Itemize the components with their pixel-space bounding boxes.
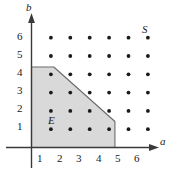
data-point-dot <box>49 72 53 76</box>
data-point-dot <box>127 127 131 131</box>
data-point-dot <box>68 72 72 76</box>
event-region-label-E: E <box>48 115 55 126</box>
sample-space-label-S: S <box>142 24 148 35</box>
shaded-region-E <box>32 67 115 148</box>
x-tick-label: 5 <box>115 153 121 164</box>
y-tick-label: 4 <box>17 67 23 78</box>
data-point-dot <box>49 109 53 113</box>
data-point-dot <box>127 91 131 95</box>
y-tick-label: 6 <box>17 31 23 42</box>
y-axis-arrow-icon <box>28 13 35 23</box>
y-tick-label: 3 <box>17 85 23 96</box>
data-point-dot <box>88 91 92 95</box>
data-point-dot <box>146 54 150 58</box>
data-point-dot <box>68 109 72 113</box>
data-point-dot <box>146 36 150 40</box>
data-point-dot <box>68 36 72 40</box>
data-point-dot <box>68 127 72 131</box>
data-point-dot <box>107 36 111 40</box>
data-point-dot <box>127 72 131 76</box>
y-tick-label: 1 <box>17 121 23 132</box>
data-point-dot <box>88 72 92 76</box>
data-point-dot <box>146 72 150 76</box>
y-tick-label: 2 <box>17 103 23 114</box>
data-point-dot <box>68 91 72 95</box>
data-point-dot <box>107 91 111 95</box>
data-point-dot <box>88 54 92 58</box>
data-point-dot <box>127 54 131 58</box>
y-axis-label-b: b <box>26 2 32 13</box>
x-tick-label: 4 <box>96 153 102 164</box>
x-axis-label-a: a <box>160 136 166 147</box>
data-point-dot <box>127 36 131 40</box>
x-tick-label: 1 <box>37 153 43 164</box>
data-point-dot <box>49 54 53 58</box>
data-point-dot <box>88 36 92 40</box>
x-tick-label: 3 <box>76 153 82 164</box>
data-point-dot <box>146 91 150 95</box>
data-point-dot <box>68 54 72 58</box>
data-point-dot <box>127 109 131 113</box>
data-point-dot <box>88 127 92 131</box>
data-point-dot <box>146 109 150 113</box>
data-point-dot <box>107 72 111 76</box>
data-point-dot <box>107 127 111 131</box>
data-point-dot <box>107 54 111 58</box>
data-point-dot <box>49 36 53 40</box>
data-point-dot <box>49 91 53 95</box>
data-point-dot <box>88 109 92 113</box>
math-figure-scatter-region: 6 5 4 3 2 1 1 2 3 4 5 6 b a S E <box>0 0 172 174</box>
data-point-dot <box>146 127 150 131</box>
y-tick-label: 5 <box>17 49 23 60</box>
x-tick-label: 6 <box>134 153 140 164</box>
x-axis-arrow-icon <box>149 144 159 151</box>
x-tick-label: 2 <box>57 153 63 164</box>
data-point-dot <box>49 127 53 131</box>
data-point-dot <box>107 109 111 113</box>
